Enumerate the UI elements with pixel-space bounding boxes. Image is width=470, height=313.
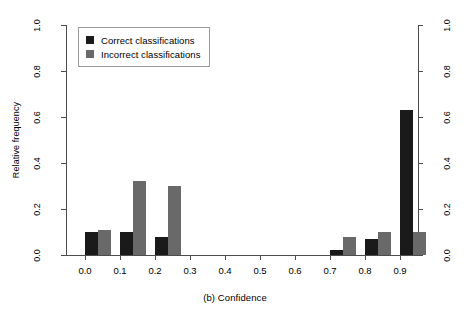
y-axis-right-tick-label: 0.8: [442, 56, 453, 86]
y-axis-left-tick: [61, 71, 66, 72]
bar-correct: [330, 250, 343, 255]
bar-incorrect: [413, 232, 426, 255]
y-axis-left-tick-label: 0.8: [32, 56, 43, 86]
x-axis-title: (b) Confidence: [0, 292, 470, 303]
x-axis-tick-label: 0.2: [139, 265, 171, 276]
x-axis-tick-label: 0.5: [244, 265, 276, 276]
y-axis-left-tick-label: 0.0: [32, 240, 43, 270]
legend-item-label: Correct classifications: [101, 35, 195, 46]
legend-item: Incorrect classifications: [86, 47, 200, 61]
legend-item: Correct classifications: [86, 33, 200, 47]
y-axis-right-tick: [418, 209, 423, 210]
y-axis-left-tick: [61, 117, 66, 118]
y-axis-right-tick: [418, 163, 423, 164]
legend-swatch-icon: [86, 50, 94, 58]
chart-figure: Relative frequency 0.00.20.40.60.81.0 0.…: [0, 0, 470, 313]
bar-correct: [365, 239, 378, 255]
plot-area: 0.00.20.40.60.81.0 0.00.20.40.60.81.0 0.…: [66, 25, 418, 255]
x-axis-tick: [365, 255, 366, 260]
bar-correct: [120, 232, 133, 255]
y-axis-right-tick: [418, 71, 423, 72]
y-axis-right-tick-label: 1.0: [442, 10, 453, 40]
y-axis-left-tick: [61, 25, 66, 26]
x-axis-tick: [330, 255, 331, 260]
bar-incorrect: [343, 237, 356, 255]
bar-correct: [85, 232, 98, 255]
bar-incorrect: [378, 232, 391, 255]
y-axis-right-tick: [418, 25, 423, 26]
x-axis-tick: [295, 255, 296, 260]
x-axis-tick-label: 0.4: [209, 265, 241, 276]
x-axis-tick: [260, 255, 261, 260]
x-axis-tick: [85, 255, 86, 260]
bar-incorrect: [98, 230, 111, 255]
y-axis-left-tick-label: 0.2: [32, 194, 43, 224]
y-axis-right-tick-label: 0.4: [442, 148, 453, 178]
bar-correct: [400, 110, 413, 255]
x-axis-tick: [190, 255, 191, 260]
x-axis-tick: [155, 255, 156, 260]
chart-legend: Correct classificationsIncorrect classif…: [78, 27, 210, 67]
x-axis-tick: [120, 255, 121, 260]
y-axis-title: Relative frequency: [8, 25, 24, 255]
y-axis-right-tick-label: 0.0: [442, 240, 453, 270]
bar-correct: [155, 237, 168, 255]
x-axis-tick: [400, 255, 401, 260]
x-axis-tick-label: 0.9: [384, 265, 416, 276]
y-axis-left-tick-label: 0.4: [32, 148, 43, 178]
y-axis-left-tick-label: 0.6: [32, 102, 43, 132]
y-axis-right-tick-label: 0.6: [442, 102, 453, 132]
bar-incorrect: [168, 186, 181, 255]
x-axis-tick-label: 0.7: [314, 265, 346, 276]
x-axis-tick-label: 0.6: [279, 265, 311, 276]
y-axis-right-tick: [418, 117, 423, 118]
legend-item-label: Incorrect classifications: [101, 49, 200, 60]
x-axis-tick: [225, 255, 226, 260]
y-axis-left-tick: [61, 163, 66, 164]
y-axis-left-tick-label: 1.0: [32, 10, 43, 40]
y-axis-left-line: [66, 25, 67, 255]
y-axis-right-tick-label: 0.2: [442, 194, 453, 224]
x-axis-tick-label: 0.1: [104, 265, 136, 276]
bar-incorrect: [133, 181, 146, 255]
y-axis-right-tick: [418, 255, 423, 256]
y-axis-right-line: [418, 25, 419, 255]
x-axis-tick-label: 0.8: [349, 265, 381, 276]
legend-swatch-icon: [86, 36, 94, 44]
x-axis-tick-label: 0.3: [174, 265, 206, 276]
x-axis-tick-label: 0.0: [69, 265, 101, 276]
y-axis-left-tick: [61, 255, 66, 256]
y-axis-left-tick: [61, 209, 66, 210]
